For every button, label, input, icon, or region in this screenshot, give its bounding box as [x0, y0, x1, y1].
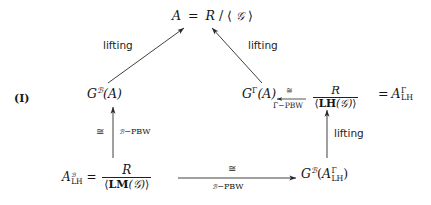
node-right-quotient-numerator: R — [313, 84, 359, 98]
arrow-lifting-right — [212, 28, 262, 83]
node-right-quotient-denominator: ⟨LH(𝒢)⟩ — [313, 98, 359, 110]
node-bottom-left-sub: LH — [71, 178, 82, 185]
fraction-LM: R⟨LM(𝒢)⟩ — [102, 164, 151, 192]
node-bottom-left: AℬLH=R⟨LM(𝒢)⟩ — [62, 164, 153, 192]
label-lifting-right: lifting — [248, 39, 278, 51]
node-left-mid-arg: (A) — [103, 86, 122, 101]
den-close-right: ⟩ — [352, 97, 356, 109]
label-pbw-left-vertical: ℬ−PBW — [119, 127, 150, 136]
den-arg-left: (𝒢) — [128, 178, 145, 191]
arrow-lifting-left — [108, 28, 184, 83]
label-lifting-left: lifting — [103, 39, 133, 51]
figure-tag: (I) — [14, 92, 30, 105]
label-pbw-bottom-horizontal: ℬ−PBW — [212, 182, 243, 191]
label-cong-left-vertical: ≅ — [96, 126, 104, 137]
node-right-A-sub: LH — [401, 94, 413, 101]
label-lifting-right-vertical: lifting — [334, 127, 364, 139]
node-bottom-right: Gℬ(AΓLH) — [301, 166, 348, 182]
node-bottom-right-close: ) — [343, 166, 348, 181]
node-bottom-left-scripts: ℬLH — [71, 172, 82, 185]
node-top-ideal-gen: 𝒢 — [236, 9, 244, 23]
node-bottom-left-eq: = — [87, 170, 97, 184]
node-top-slash: / — [219, 8, 223, 23]
node-right-A: A — [391, 86, 400, 101]
node-top-ideal-open: ⟨ — [227, 8, 232, 23]
node-bottom-right-symbol: G — [301, 166, 311, 181]
label-pbw-bottom-suffix: −PBW — [217, 182, 243, 191]
node-top-equals: = — [188, 8, 198, 23]
label-pbw-left-suffix: −PBW — [124, 127, 150, 136]
node-top-ideal-close: ⟩ — [248, 8, 253, 23]
node-left-mid: Gℬ(A) — [87, 86, 122, 101]
label-cong-right-horizontal: ≅ — [286, 86, 293, 95]
node-right-mid: GΓ(A) — [242, 86, 276, 101]
den-arg-right: (𝒢) — [336, 97, 352, 109]
den-op-LM: LM — [108, 178, 128, 191]
node-bottom-left-numerator: R — [102, 164, 151, 179]
den-op-LH: LH — [319, 97, 336, 109]
node-bottom-left-denominator: ⟨LM(𝒢)⟩ — [102, 178, 151, 191]
den-close-left: ⟩ — [145, 178, 149, 191]
node-bottom-right-inner: A — [322, 166, 331, 181]
node-top-lhs: A — [172, 8, 181, 23]
node-right-A-scripts: ΓLH — [401, 87, 413, 102]
commutative-diagram: (I) A = R / ⟨ 𝒢 ⟩ lifting lifting Gℬ(A) … — [0, 0, 431, 205]
label-cong-bottom-horizontal: ≅ — [228, 163, 236, 174]
node-right-mid-symbol: G — [242, 86, 252, 101]
node-bottom-left-symbol: A — [62, 170, 71, 184]
node-right-quotient: R ⟨LH(𝒢)⟩ — [311, 84, 360, 111]
node-right-equals: =AΓLH — [378, 86, 413, 102]
node-right-mid-arg: (A) — [257, 86, 276, 101]
node-bottom-right-inner-sub: LH — [331, 175, 343, 182]
node-right-eq: = — [378, 86, 388, 101]
node-left-mid-symbol: G — [87, 86, 97, 101]
fraction-LH: R ⟨LH(𝒢)⟩ — [313, 84, 359, 111]
node-top-ring: R — [205, 8, 214, 23]
node-top-A: A = R / ⟨ 𝒢 ⟩ — [172, 8, 253, 23]
label-pbw-right-horizontal: Γ−PBW — [273, 101, 303, 110]
node-bottom-right-inner-scripts: ΓLH — [331, 167, 343, 182]
label-pbw-right-suffix: −PBW — [278, 101, 303, 110]
